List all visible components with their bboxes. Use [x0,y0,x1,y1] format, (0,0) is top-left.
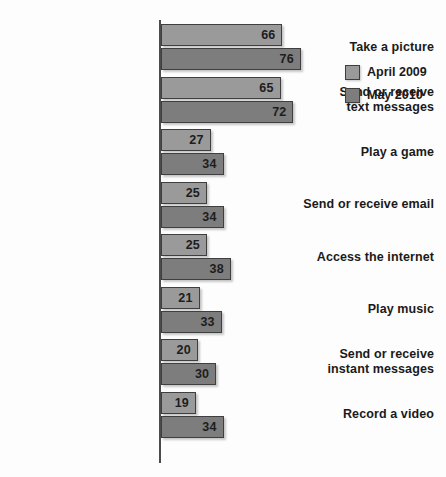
bar[interactable]: 65 [161,77,281,99]
category-label-line: instant messages [296,362,434,377]
bar-value-label: 38 [210,262,230,276]
bar-value-label: 34 [202,157,222,171]
bar[interactable]: 34 [161,153,224,175]
bar-value-label: 65 [259,81,279,95]
bar-value-label: 33 [200,315,220,329]
bar-value-label: 34 [202,210,222,224]
bar[interactable]: 20 [161,339,198,361]
category-label-line: Take a picture [296,40,434,55]
category-label: Record a video [296,407,446,422]
bar-value-label: 20 [176,343,196,357]
chart-legend: April 2009May 2010 [345,62,427,108]
bar[interactable]: 27 [161,129,211,151]
bar-value-label: 25 [186,238,206,252]
bar[interactable]: 72 [161,101,293,123]
bar[interactable]: 34 [161,206,224,228]
category-label-line: Record a video [296,407,434,422]
bar-value-label: 66 [261,28,281,42]
bar-value-label: 25 [186,186,206,200]
bar[interactable]: 21 [161,287,200,309]
legend-swatch-icon [345,65,360,80]
legend-label: April 2009 [367,65,427,79]
category-label-line: Play music [296,302,434,317]
category-label: Send or receiveinstant messages [296,347,446,377]
category-label-line: Send or receive [296,347,434,362]
category-label-line: Access the internet [296,250,434,265]
bar[interactable]: 25 [161,234,207,256]
bar[interactable]: 19 [161,392,196,414]
legend-item[interactable]: April 2009 [345,62,427,82]
bar-value-label: 21 [178,291,198,305]
legend-label: May 2010 [367,88,423,102]
category-label: Send or receive email [296,197,446,212]
bar-value-label: 19 [175,396,195,410]
bar-value-label: 72 [272,105,292,119]
bar[interactable]: 76 [161,48,301,70]
category-label: Play a game [296,145,446,160]
bar-value-label: 34 [202,420,222,434]
bar-chart: 66766572273425342538213320301934 Take a … [0,0,446,477]
bar[interactable]: 30 [161,363,216,385]
bar[interactable]: 25 [161,182,207,204]
category-label-line: Send or receive email [296,197,434,212]
bar-value-label: 27 [189,133,209,147]
category-label: Access the internet [296,250,446,265]
legend-swatch-icon [345,88,360,103]
category-label-line: Play a game [296,145,434,160]
bar[interactable]: 38 [161,258,231,280]
bar-value-label: 30 [195,367,215,381]
bar[interactable]: 34 [161,416,224,438]
category-label: Play music [296,302,446,317]
bar[interactable]: 33 [161,311,222,333]
legend-item[interactable]: May 2010 [345,85,427,105]
bar[interactable]: 66 [161,24,282,46]
category-label: Take a picture [296,40,446,55]
